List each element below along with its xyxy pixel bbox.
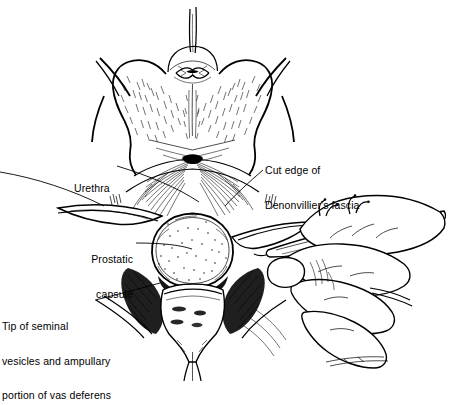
- seminal-vesicles-label-line-3: portion of vas deferens: [2, 390, 111, 402]
- seminal-vesicles-label-line-1: Tip of seminal: [2, 321, 111, 333]
- denonvilliers-fascia-label: Cut edge of Denonvillier's fascia: [265, 142, 360, 234]
- urethra-label-line-1: Urethra: [74, 183, 110, 195]
- seminal-vesicles-label: Tip of seminal vesicles and ampullary po…: [2, 298, 111, 405]
- denonvilliers-fascia-label-line-2: Denonvillier's fascia: [265, 200, 360, 212]
- denonvilliers-fascia-label-line-1: Cut edge of: [265, 165, 360, 177]
- seminal-vesicles-label-line-2: vesicles and ampullary: [2, 356, 111, 368]
- urethra-label: Urethra: [74, 160, 110, 218]
- prostatic-capsule-label-line-1: Prostatic: [55, 254, 133, 266]
